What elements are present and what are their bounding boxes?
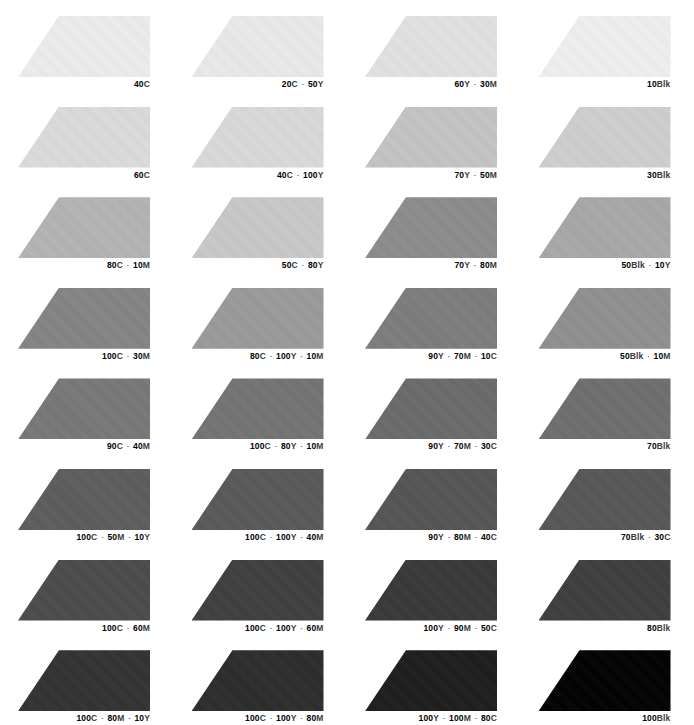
swatch-cell: 90Y · 70M · 10C bbox=[347, 285, 521, 376]
tint-patch[interactable] bbox=[18, 197, 150, 258]
label-percent: 100 bbox=[276, 532, 291, 542]
tint-patch[interactable] bbox=[365, 197, 497, 258]
swatch-cell: 70Blk bbox=[521, 375, 694, 466]
tint-patch[interactable] bbox=[365, 107, 497, 168]
tint-patch[interactable] bbox=[192, 288, 324, 349]
tint-patch[interactable] bbox=[539, 107, 671, 168]
label-ink: Blk bbox=[630, 351, 644, 361]
swatch-cell: 80Blk bbox=[521, 557, 694, 648]
tint-patch[interactable] bbox=[192, 16, 324, 77]
tint-patch[interactable] bbox=[192, 650, 324, 711]
label-separator: · bbox=[266, 351, 276, 361]
tint-patch[interactable] bbox=[365, 560, 497, 621]
label-percent: 60 bbox=[134, 170, 144, 180]
label-percent: 100 bbox=[449, 713, 464, 723]
tint-patch[interactable] bbox=[539, 197, 671, 258]
swatch-cell: 70Y · 50M bbox=[347, 104, 521, 195]
label-percent: 100 bbox=[419, 713, 434, 723]
label-percent: 50 bbox=[308, 79, 318, 89]
tint-patch[interactable] bbox=[365, 288, 497, 349]
swatch-cell: 50C · 80Y bbox=[174, 194, 348, 285]
tint-patch[interactable] bbox=[365, 469, 497, 530]
label-ink: M bbox=[316, 623, 323, 633]
label-percent: 100 bbox=[423, 623, 438, 633]
swatch-cell: 90Y · 80M · 40C bbox=[347, 466, 521, 557]
label-ink: Blk bbox=[657, 713, 671, 723]
label-ink: C bbox=[491, 532, 497, 542]
tint-patch[interactable] bbox=[365, 16, 497, 77]
label-separator: · bbox=[471, 623, 481, 633]
swatch-cell: 60Y · 30M bbox=[347, 13, 521, 104]
color-tint-chart-sheet: 40C20C · 50Y60Y · 30M10Blk60C40C · 100Y7… bbox=[0, 0, 694, 725]
tint-patch[interactable] bbox=[365, 378, 497, 439]
tint-patch[interactable] bbox=[18, 469, 150, 530]
tint-patch[interactable] bbox=[192, 469, 324, 530]
label-ink: M bbox=[143, 351, 150, 361]
label-ink: M bbox=[143, 623, 150, 633]
tint-patch[interactable] bbox=[539, 378, 671, 439]
tint-patch[interactable] bbox=[192, 197, 324, 258]
label-ink: M bbox=[490, 260, 497, 270]
label-percent: 10 bbox=[133, 260, 143, 270]
label-ink: M bbox=[490, 79, 497, 89]
tint-patch[interactable] bbox=[18, 378, 150, 439]
label-percent: 70 bbox=[454, 260, 464, 270]
label-percent: 10 bbox=[134, 713, 144, 723]
tint-patch[interactable] bbox=[539, 288, 671, 349]
label-ink: M bbox=[464, 713, 471, 723]
tint-patch[interactable] bbox=[192, 560, 324, 621]
tint-patch[interactable] bbox=[18, 16, 150, 77]
label-ink: M bbox=[490, 170, 497, 180]
label-ink: M bbox=[316, 532, 323, 542]
label-percent: 50 bbox=[480, 170, 490, 180]
label-percent: 80 bbox=[454, 532, 464, 542]
tint-patch[interactable] bbox=[192, 378, 324, 439]
tint-patch-label: 100C · 80Y · 10M bbox=[174, 441, 324, 452]
label-percent: 60 bbox=[133, 623, 143, 633]
tint-patch[interactable] bbox=[18, 107, 150, 168]
label-ink: M bbox=[464, 441, 471, 451]
label-percent: 10 bbox=[655, 260, 665, 270]
tint-patch[interactable] bbox=[18, 650, 150, 711]
label-percent: 80 bbox=[281, 441, 291, 451]
swatch-cell: 100C · 100Y · 40M bbox=[174, 466, 348, 557]
label-percent: 100 bbox=[76, 532, 91, 542]
label-separator: · bbox=[266, 623, 276, 633]
swatch-cell: 90Y · 70M · 30C bbox=[347, 375, 521, 466]
tint-patch[interactable] bbox=[18, 560, 150, 621]
label-ink: C bbox=[664, 532, 670, 542]
label-percent: 80 bbox=[480, 260, 490, 270]
label-percent: 70 bbox=[454, 441, 464, 451]
tint-patch[interactable] bbox=[539, 560, 671, 621]
tint-patch[interactable] bbox=[539, 469, 671, 530]
label-separator: · bbox=[296, 351, 306, 361]
tint-patch[interactable] bbox=[365, 650, 497, 711]
tint-patch[interactable] bbox=[539, 650, 671, 711]
tint-patch[interactable] bbox=[192, 107, 324, 168]
label-ink: C bbox=[144, 170, 150, 180]
label-percent: 50 bbox=[481, 623, 491, 633]
label-separator: · bbox=[124, 532, 134, 542]
label-percent: 80 bbox=[481, 713, 491, 723]
label-percent: 80 bbox=[107, 260, 117, 270]
tint-patch-label: 50Blk · 10M bbox=[521, 351, 671, 362]
label-percent: 80 bbox=[647, 623, 657, 633]
label-percent: 60 bbox=[307, 623, 317, 633]
label-ink: Blk bbox=[657, 170, 671, 180]
tint-patch[interactable] bbox=[18, 288, 150, 349]
label-percent: 100 bbox=[642, 713, 657, 723]
label-ink: M bbox=[464, 532, 471, 542]
tint-patch[interactable] bbox=[539, 16, 671, 77]
label-separator: · bbox=[296, 713, 306, 723]
swatch-cell: 100Blk bbox=[521, 647, 694, 725]
label-percent: 90 bbox=[454, 623, 464, 633]
tint-patch-label: 70Y · 80M bbox=[347, 260, 497, 271]
label-percent: 80 bbox=[107, 713, 117, 723]
label-ink: Blk bbox=[657, 441, 671, 451]
label-ink: C bbox=[292, 79, 298, 89]
label-percent: 10 bbox=[481, 351, 491, 361]
label-percent: 30 bbox=[480, 79, 490, 89]
label-ink: Blk bbox=[657, 79, 671, 89]
label-ink: M bbox=[464, 351, 471, 361]
swatch-cell: 80C · 100Y · 10M bbox=[174, 285, 348, 376]
